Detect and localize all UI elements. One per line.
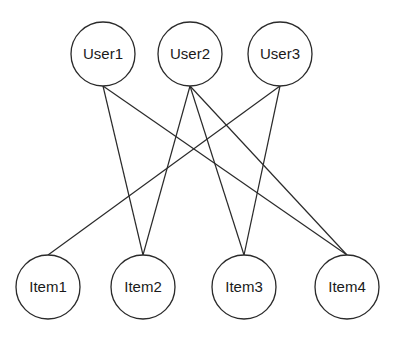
node-label: Item1 <box>29 278 67 295</box>
edge-user3-item3 <box>244 86 280 255</box>
node-label: User2 <box>170 45 210 62</box>
node-item1: Item1 <box>16 255 80 319</box>
edges-layer <box>48 86 347 255</box>
node-user3: User3 <box>248 22 312 86</box>
edge-user1-item4 <box>103 86 347 255</box>
node-item3: Item3 <box>212 255 276 319</box>
edge-user1-item2 <box>103 86 143 255</box>
edge-user2-item2 <box>143 86 190 255</box>
node-label: User1 <box>83 45 123 62</box>
node-label: Item3 <box>225 278 263 295</box>
node-item4: Item4 <box>315 255 379 319</box>
node-item2: Item2 <box>111 255 175 319</box>
node-label: User3 <box>260 45 300 62</box>
node-user2: User2 <box>158 22 222 86</box>
edge-user2-item4 <box>190 86 347 255</box>
user-item-graph: User1 User2 User3 Item1 Item2 Item3 Item… <box>0 0 397 339</box>
edge-user3-item1 <box>48 86 280 255</box>
edge-user2-item3 <box>190 86 244 255</box>
node-label: Item2 <box>124 278 162 295</box>
nodes-layer: User1 User2 User3 Item1 Item2 Item3 Item… <box>16 22 379 319</box>
node-user1: User1 <box>71 22 135 86</box>
node-label: Item4 <box>328 278 366 295</box>
